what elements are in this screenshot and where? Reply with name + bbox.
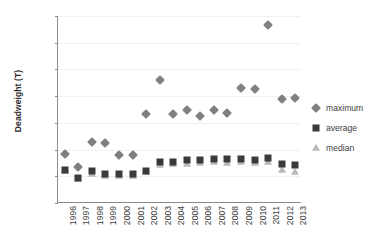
legend-label: maximum [326, 103, 363, 113]
legend-item-average[interactable]: average [310, 118, 389, 138]
diamond-marker-icon-glyph [311, 103, 321, 113]
data-point-average [210, 155, 217, 162]
data-point-average [88, 167, 95, 174]
x-axis-tick-label: 2006 [203, 206, 213, 225]
data-point-maximum [155, 75, 165, 85]
data-point-maximum [209, 105, 219, 115]
data-point-maximum [182, 105, 192, 115]
data-point-median [291, 167, 299, 174]
data-point-average [224, 156, 231, 163]
data-point-average [156, 159, 163, 166]
data-point-average [75, 174, 82, 181]
data-point-average [61, 167, 68, 174]
data-point-maximum [100, 138, 110, 148]
plot-area [57, 16, 301, 203]
x-axis-tick-label: 2010 [258, 206, 268, 225]
x-axis-tick-label: 2012 [285, 206, 295, 225]
data-point-average [183, 157, 190, 164]
x-axis-tick-label: 1998 [95, 206, 105, 225]
data-point-maximum [250, 84, 260, 94]
diamond-marker-icon [310, 102, 322, 114]
data-point-maximum [168, 109, 178, 119]
legend-label: average [326, 123, 357, 133]
x-axis-tick-label: 2001 [136, 206, 146, 225]
legend-label: median [326, 143, 354, 153]
data-point-average [197, 156, 204, 163]
gridline [58, 16, 301, 17]
x-axis-tick-label: 2000 [122, 206, 132, 225]
legend-item-median[interactable]: median [310, 138, 389, 158]
y-axis-tick-mark [55, 123, 58, 124]
data-point-average [102, 170, 109, 177]
x-axis-tick-label: 1997 [81, 206, 91, 225]
legend-item-maximum[interactable]: maximum [310, 98, 389, 118]
data-point-maximum [195, 111, 205, 121]
data-point-average [278, 161, 285, 168]
data-point-maximum [290, 93, 300, 103]
y-axis-tick-mark [55, 150, 58, 151]
x-axis-tick-label: 2002 [149, 206, 159, 225]
deadweight-scatter-chart: Deadweight (T) 0200040006000800010000120… [0, 0, 389, 247]
data-point-maximum [73, 162, 83, 172]
x-axis-tick-label: 1999 [108, 206, 118, 225]
x-axis-tick-label: 2005 [190, 206, 200, 225]
triangle-marker-icon-glyph [312, 144, 320, 151]
x-axis-tick-label: 2003 [163, 206, 173, 225]
data-point-average [251, 156, 258, 163]
x-axis-tick-label: 2009 [244, 206, 254, 225]
data-point-maximum [236, 83, 246, 93]
y-axis-title: Deadweight (T) [13, 36, 23, 166]
data-point-maximum [141, 109, 151, 119]
y-axis-tick-mark [55, 16, 58, 17]
gridline [58, 69, 301, 70]
y-axis-tick-mark [55, 96, 58, 97]
data-point-average [265, 154, 272, 161]
x-axis-tick-label: 2007 [217, 206, 227, 225]
data-point-average [143, 167, 150, 174]
square-marker-icon [310, 122, 322, 134]
data-point-maximum [222, 108, 232, 118]
y-axis-tick-mark [55, 43, 58, 44]
y-axis-tick-mark [55, 176, 58, 177]
gridline [58, 123, 301, 124]
data-point-maximum [87, 137, 97, 147]
triangle-marker-icon [310, 142, 322, 154]
y-axis-tick-mark [55, 203, 58, 204]
square-marker-icon-glyph [313, 125, 320, 132]
data-point-average [170, 158, 177, 165]
gridline [58, 96, 301, 97]
x-axis-tick-label: 2004 [176, 206, 186, 225]
y-axis-tick-mark [55, 69, 58, 70]
x-axis-tick-label: 2008 [230, 206, 240, 225]
gridline [58, 43, 301, 44]
data-point-average [238, 155, 245, 162]
data-point-maximum [114, 150, 124, 160]
data-point-maximum [128, 150, 138, 160]
data-point-average [116, 171, 123, 178]
data-point-average [129, 171, 136, 178]
x-axis-tick-label: 1996 [68, 206, 78, 225]
data-point-average [292, 161, 299, 168]
x-axis-tick-label: 2011 [271, 206, 281, 224]
chart-legend: maximumaveragemedian [310, 98, 389, 158]
x-axis-tick-label: 2013 [298, 206, 308, 225]
gridline [58, 150, 301, 151]
data-point-maximum [263, 20, 273, 30]
